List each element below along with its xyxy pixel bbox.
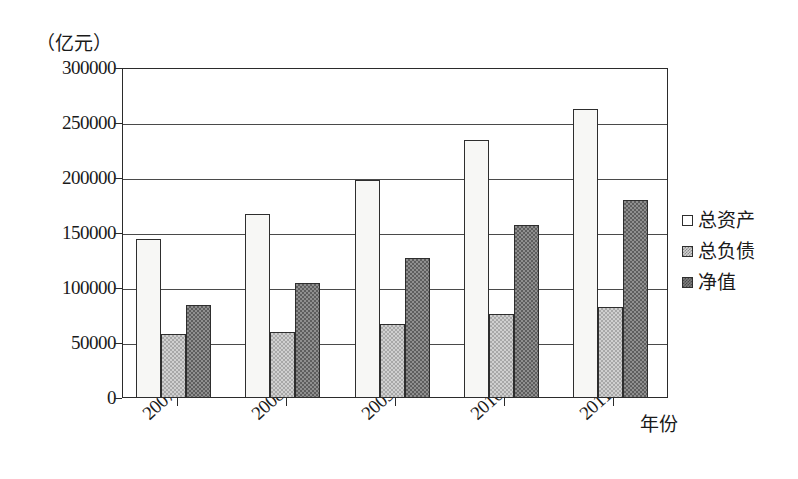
bar-2010-总资产	[464, 140, 489, 399]
bar-2008-总负债	[270, 332, 295, 398]
legend-item-总负债: 总负债	[682, 236, 755, 267]
bar-2007-总资产	[136, 239, 161, 399]
y-axis-tick-mark	[114, 123, 122, 124]
bar-group	[355, 68, 430, 398]
legend-item-总资产: 总资产	[682, 205, 755, 236]
y-axis-tick-label: 200000	[0, 168, 116, 187]
y-axis-tick-mark	[114, 233, 122, 234]
x-axis-title: 年份	[640, 409, 678, 436]
bar-group	[464, 68, 539, 398]
legend-item-label: 总负债	[698, 242, 755, 261]
bar-2011-净值	[623, 200, 648, 398]
y-axis-unit-label: （亿元）	[36, 28, 112, 55]
bar-chart: （亿元） 05000010000015000020000025000030000…	[0, 0, 798, 479]
y-axis-tick-label: 0	[0, 388, 116, 407]
y-axis-tick-label: 50000	[0, 333, 116, 352]
bar-2009-净值	[405, 258, 430, 398]
y-axis-tick-label: 150000	[0, 223, 116, 242]
bar-2009-总资产	[355, 180, 380, 398]
chart-legend: 总资产总负债净值	[682, 205, 755, 298]
bar-group	[245, 68, 320, 398]
legend-swatch-icon	[682, 215, 693, 226]
y-axis-tick-mark	[114, 343, 122, 344]
y-axis-tick-mark	[114, 288, 122, 289]
bar-2010-总负债	[489, 314, 514, 398]
y-axis-tick-label: 300000	[0, 58, 116, 77]
bar-2011-总负债	[598, 307, 623, 398]
bar-2009-总负债	[380, 324, 405, 398]
legend-swatch-icon	[682, 277, 693, 288]
bar-group	[136, 68, 211, 398]
bar-2008-净值	[295, 283, 320, 399]
bar-2007-总负债	[161, 334, 186, 398]
legend-swatch-icon	[682, 246, 693, 257]
y-axis-tick-mark	[114, 398, 122, 399]
y-axis-tick-mark	[114, 178, 122, 179]
legend-item-label: 总资产	[698, 211, 755, 230]
bar-group	[573, 68, 648, 398]
bar-2008-总资产	[245, 214, 270, 398]
y-axis-tick-label: 100000	[0, 278, 116, 297]
y-axis-tick-mark	[114, 68, 122, 69]
y-axis-tick-label: 250000	[0, 113, 116, 132]
bar-2010-净值	[514, 225, 539, 398]
bar-2007-净值	[186, 305, 211, 399]
legend-item-label: 净值	[698, 273, 736, 292]
bar-2011-总资产	[573, 109, 598, 398]
legend-item-净值: 净值	[682, 267, 755, 298]
bar-groups	[122, 68, 668, 398]
